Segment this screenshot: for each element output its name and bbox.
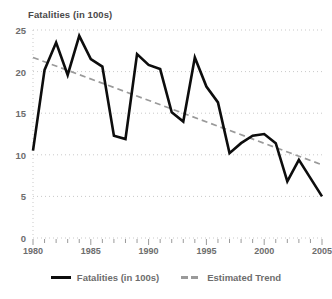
- x-axis-ticks: [33, 239, 322, 245]
- legend-label-fatalities: Fatalities (in 100s): [77, 272, 159, 283]
- y-tick-label: 0: [4, 233, 26, 244]
- gridlines-group: [33, 30, 322, 238]
- x-tick-label: 2005: [312, 246, 332, 256]
- x-tick-label: 1985: [81, 246, 101, 256]
- x-tick-label: 1980: [23, 246, 43, 256]
- y-tick-label: 25: [4, 25, 26, 36]
- legend-item-estimated-trend: Estimated Trend: [181, 272, 281, 283]
- solid-line-swatch: [51, 276, 71, 279]
- chart-legend: Fatalities (in 100s) Estimated Trend: [0, 272, 332, 283]
- fatalities-data-line: [33, 36, 322, 197]
- y-tick-label: 10: [4, 149, 26, 160]
- x-tick-label: 1990: [139, 246, 159, 256]
- y-tick-label: 15: [4, 108, 26, 119]
- legend-item-fatalities: Fatalities (in 100s): [51, 272, 159, 283]
- y-tick-label: 5: [4, 191, 26, 202]
- legend-label-estimated-trend: Estimated Trend: [207, 272, 281, 283]
- plot-area: [0, 0, 332, 299]
- x-tick-label: 2000: [254, 246, 274, 256]
- fatalities-line-chart: Fatalities (in 100s) 0510152025 19801985…: [0, 0, 332, 299]
- y-tick-label: 20: [4, 66, 26, 77]
- x-tick-label: 1995: [196, 246, 216, 256]
- dashed-line-swatch: [181, 276, 201, 279]
